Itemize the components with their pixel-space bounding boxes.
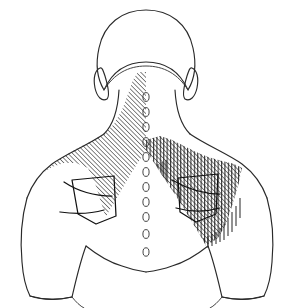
vertebra-mark: [143, 230, 149, 239]
anatomy-figure: Posterior upper-body pain distribution d…: [0, 0, 294, 308]
sleeve-left-hem: [30, 296, 72, 299]
vertebra-mark: [143, 248, 149, 256]
sleeve-right-hem: [222, 296, 264, 299]
hatch-fill-right-vertical: [0, 0, 294, 308]
vertebra-mark: [143, 213, 149, 222]
vertebra-mark: [143, 168, 149, 177]
anatomy-illustration: [0, 0, 294, 308]
hatch-fill-left: [0, 0, 294, 308]
shaded-region-right: [0, 0, 294, 308]
hatch-fill-right-diagonal: [0, 0, 294, 308]
vertebra-mark: [143, 153, 149, 162]
neck-outline-right: [175, 90, 190, 134]
arm-right: [210, 297, 222, 308]
shirt-contour-right: [146, 246, 208, 272]
shaded-region-left: [0, 0, 294, 308]
arm-left: [72, 297, 84, 308]
vertebra-mark: [143, 198, 149, 207]
shirt-contour-left: [86, 246, 146, 272]
vertebra-mark: [143, 183, 149, 192]
